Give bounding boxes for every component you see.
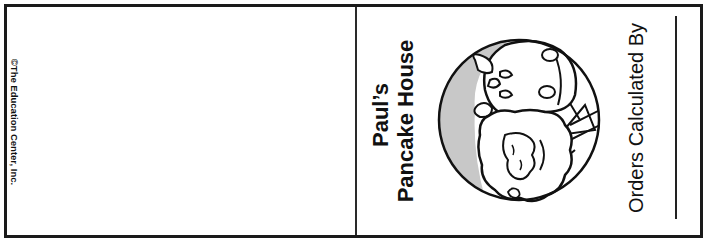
fold-divider	[355, 7, 357, 235]
chef-character-icon	[430, 30, 610, 215]
copyright-text: ©The Education Center, Inc.	[9, 59, 20, 185]
signature-line[interactable]	[675, 16, 677, 219]
title-line-1: Paul’s	[368, 83, 394, 147]
title-line-2: Pancake House	[393, 40, 419, 203]
orders-calculated-by-label: Orders Calculated By	[625, 23, 648, 213]
